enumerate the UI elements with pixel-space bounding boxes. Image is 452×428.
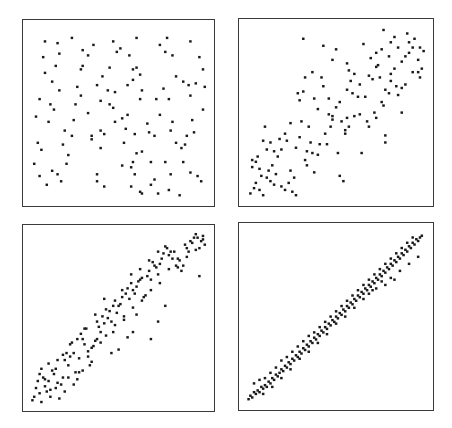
scatter-point: [379, 76, 382, 78]
scatter-point: [422, 50, 425, 52]
scatter-point: [335, 48, 338, 50]
scatter-point: [58, 397, 60, 399]
scatter-point: [260, 175, 263, 177]
scatter-point: [130, 166, 132, 168]
scatter-point: [344, 129, 347, 131]
scatter-point: [258, 379, 261, 381]
scatter-point: [141, 299, 143, 301]
scatter-point: [65, 352, 67, 354]
scatter-point: [397, 46, 400, 48]
scatter-point: [322, 45, 325, 47]
scatter-point: [371, 289, 374, 291]
scatter-point: [53, 108, 55, 110]
scatter-point: [315, 338, 318, 340]
scatter-point: [271, 386, 274, 388]
scatter-point: [123, 319, 125, 321]
scatter-point: [74, 103, 76, 105]
scatter-point: [135, 66, 137, 68]
scatter-point: [168, 254, 170, 256]
scatter-point: [94, 313, 96, 315]
scatter-point: [275, 366, 278, 368]
scatter-point: [60, 180, 62, 182]
scatter-point: [114, 91, 116, 93]
scatter-point: [271, 164, 274, 166]
scatter-point: [56, 359, 58, 361]
scatter-point: [107, 89, 109, 91]
scatter-point: [114, 121, 116, 123]
scatter-point: [340, 120, 343, 122]
scatter-point: [168, 268, 170, 270]
scatter-point: [40, 401, 42, 403]
scatter-point: [262, 387, 265, 389]
scatter-point: [360, 152, 363, 154]
scatter-point: [47, 121, 49, 123]
scatter-point: [322, 85, 325, 87]
scatter-point: [87, 112, 89, 114]
scatter-point: [90, 361, 92, 363]
scatter-point: [324, 132, 327, 134]
scatter-point: [286, 356, 289, 358]
scatter-point: [164, 305, 166, 307]
scatter-point: [74, 371, 76, 373]
scatter-point: [53, 373, 55, 375]
scatter-point: [309, 141, 312, 143]
scatter-point: [258, 168, 261, 170]
scatter-point: [276, 375, 279, 377]
scatter-point: [110, 320, 112, 322]
scatter-point: [390, 257, 393, 259]
scatter-point: [307, 351, 310, 353]
scatter-point: [324, 321, 327, 323]
scatter-point: [177, 257, 179, 259]
scatter-point: [141, 150, 143, 152]
scatter-point: [351, 303, 354, 305]
scatter-point: [289, 169, 292, 171]
scatter-point: [400, 247, 403, 249]
scatter-point: [38, 373, 40, 375]
scatter-point: [195, 233, 197, 235]
scatter-point: [119, 303, 121, 305]
scatter-point: [105, 334, 107, 336]
scatter-point: [307, 345, 310, 347]
scatter-point: [302, 38, 305, 40]
scatter-point: [286, 366, 289, 368]
scatter-point: [159, 114, 161, 116]
scatter-point: [362, 298, 365, 300]
scatter-point: [72, 119, 74, 121]
scatter-point: [81, 338, 83, 340]
scatter-point: [67, 154, 69, 156]
scatter-point: [313, 97, 316, 99]
scatter-point: [269, 372, 272, 374]
scatter-point: [116, 312, 118, 314]
scatter-point: [112, 107, 114, 109]
scatter-point: [44, 378, 46, 380]
scatter-point: [391, 264, 394, 266]
scatter-point: [313, 171, 316, 173]
scatter-point: [99, 341, 101, 343]
scatter-point: [116, 51, 118, 53]
scatter-point: [202, 68, 204, 70]
scatter-point: [351, 92, 354, 94]
scatter-point: [266, 386, 269, 388]
scatter-point: [353, 307, 356, 309]
scatter-point: [196, 175, 198, 177]
scatter-point: [346, 62, 349, 64]
scatter-plot-area: [239, 223, 433, 410]
scatter-point: [417, 71, 420, 73]
scatter-point: [76, 338, 78, 340]
scatter-point: [353, 115, 356, 117]
scatter-point: [302, 90, 305, 92]
scatter-point: [413, 243, 416, 245]
scatter-point: [291, 190, 294, 192]
scatter-point: [298, 136, 301, 138]
scatter-point: [186, 247, 188, 249]
scatter-point: [266, 176, 269, 178]
scatter-point: [406, 32, 409, 34]
scatter-point: [191, 119, 193, 121]
scatter-point: [204, 86, 206, 88]
scatter-point: [81, 65, 83, 67]
scatter-point: [71, 135, 73, 137]
scatter-point: [195, 249, 197, 251]
scatter-point: [293, 176, 296, 178]
scatter-point: [380, 280, 383, 282]
scatter-point: [157, 192, 159, 194]
